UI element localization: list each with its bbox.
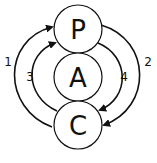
- edge-4-label: 4: [120, 70, 128, 84]
- node-c-label: C: [69, 111, 87, 141]
- node-p: P: [54, 5, 102, 53]
- node-p-label: P: [70, 15, 86, 45]
- node-c: C: [54, 101, 102, 149]
- node-a-label: A: [69, 63, 87, 93]
- pac-diagram: P A C 1 2 3 4: [0, 0, 157, 163]
- edge-1-label: 1: [4, 55, 12, 69]
- edge-2-label: 2: [144, 55, 152, 69]
- edge-3-arrow: [32, 43, 57, 111]
- node-a: A: [54, 53, 102, 101]
- edge-3-label: 3: [26, 70, 34, 84]
